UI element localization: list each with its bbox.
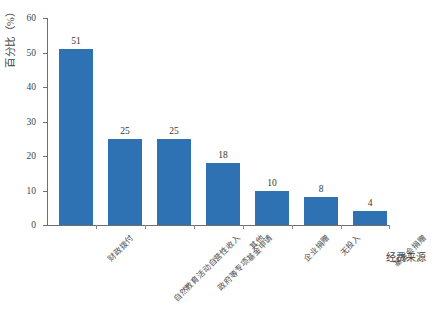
x-category-label-6: 无投入 — [337, 232, 362, 257]
bar-value-label: 51 — [71, 36, 81, 46]
y-tick-label: 40 — [27, 82, 37, 92]
y-tick-label: 10 — [27, 186, 37, 196]
bar-value-label: 18 — [218, 150, 228, 160]
y-tick-10: 10 — [43, 191, 47, 192]
bar-value-label: 8 — [319, 184, 324, 194]
y-axis-title: 百分比（%） — [2, 0, 18, 92]
bar-series-item[interactable]: 8 — [304, 197, 338, 225]
y-tick-20: 20 — [43, 156, 47, 157]
y-tick-label: 30 — [27, 117, 37, 127]
plot-area: 0 10 20 30 40 50 60 — [47, 18, 390, 225]
x-category-label-5: 企业捐赠 — [301, 232, 332, 263]
bar-series-item[interactable]: 25 — [157, 139, 191, 225]
x-tick-6 — [341, 225, 342, 229]
x-tick-7 — [389, 225, 390, 229]
y-tick-label: 50 — [27, 48, 37, 58]
x-tick-4 — [243, 225, 244, 229]
y-tick-50: 50 — [43, 53, 47, 54]
bar-series-item[interactable]: 18 — [206, 163, 240, 225]
bar-value-label: 10 — [267, 178, 277, 188]
x-axis-line — [47, 225, 390, 226]
bar-series-item[interactable]: 51 — [59, 49, 93, 225]
y-tick-40: 40 — [43, 87, 47, 88]
y-axis-line — [47, 18, 48, 225]
x-tick-2 — [145, 225, 146, 229]
y-tick-60: 60 — [43, 18, 47, 19]
bar-series-item[interactable]: 10 — [255, 191, 289, 226]
x-category-label-1: 财政拨付 — [105, 232, 136, 263]
y-tick-label: 0 — [31, 220, 36, 230]
bar-value-label: 25 — [120, 126, 130, 136]
bar-series-item[interactable]: 25 — [108, 139, 142, 225]
x-tick-3 — [194, 225, 195, 229]
y-tick-label: 60 — [27, 13, 37, 23]
y-tick-30: 30 — [43, 122, 47, 123]
x-axis-title: 经费来源 — [386, 249, 426, 264]
x-tick-1 — [96, 225, 97, 229]
y-tick-label: 20 — [27, 151, 37, 161]
bar-chart-figure: 百分比（%） 0 10 20 30 40 50 60 — [0, 0, 440, 328]
y-tick-0: 0 — [43, 225, 47, 226]
bar-value-label: 4 — [368, 198, 373, 208]
bar-value-label: 25 — [169, 126, 179, 136]
bar-series-item[interactable]: 4 — [353, 211, 387, 225]
x-tick-5 — [292, 225, 293, 229]
